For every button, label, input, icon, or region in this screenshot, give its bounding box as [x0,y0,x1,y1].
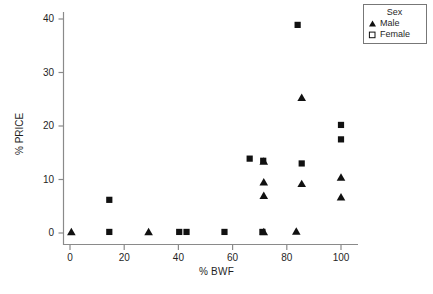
data-point-square [176,229,182,235]
y-axis-title: % PRICE [14,113,25,155]
data-point-triangle [292,227,301,234]
data-point-square [221,229,227,235]
data-point-square [247,156,253,162]
scatter-plot-figure: 010203040 020406080100 % PRICE % BWF Sex… [0,0,433,294]
data-point-triangle [259,191,268,198]
x-tick-label: 100 [326,252,356,263]
open-square-icon [368,29,377,40]
data-point-triangle [67,228,76,235]
data-point-triangle [259,178,268,185]
legend-title: Sex [368,7,421,18]
y-tick-label: 10 [30,174,54,185]
x-tick-label: 0 [55,252,85,263]
y-axis-ticks [59,19,64,233]
x-axis-ticks [70,245,341,251]
data-point-square [338,136,344,142]
x-tick-label: 60 [218,252,248,263]
filled-triangle-icon [368,18,377,29]
data-point-square [183,229,189,235]
data-point-square [338,122,344,128]
y-tick-label: 40 [30,13,54,24]
data-point-triangle [337,193,346,200]
legend-label-male: Male [380,18,400,29]
data-point-triangle [297,180,306,187]
data-series-female [106,22,344,235]
y-tick-label: 0 [30,227,54,238]
y-axis-title-wrapper: % PRICE [12,0,28,250]
x-axis-title: % BWF [0,266,433,277]
data-point-square [295,22,301,28]
data-point-triangle [144,228,153,235]
data-point-square [106,229,112,235]
y-tick-label: 20 [30,120,54,131]
data-point-square [106,197,112,203]
x-tick-label: 80 [272,252,302,263]
legend-entry-male: Male [368,18,421,29]
x-tick-label: 20 [109,252,139,263]
y-tick-label: 30 [30,67,54,78]
data-point-triangle [297,94,306,101]
x-tick-label: 40 [163,252,193,263]
legend-entry-female: Female [368,29,421,40]
data-point-triangle [337,173,346,180]
plot-canvas [0,0,433,294]
data-point-square [299,160,305,166]
legend-box: Sex Male Female [363,4,427,44]
legend-label-female: Female [380,29,410,40]
